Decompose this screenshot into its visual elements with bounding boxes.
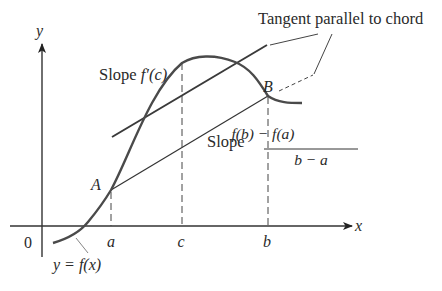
- tick-label-a: a: [107, 233, 115, 250]
- axis-y-label: y: [34, 22, 44, 40]
- origin-label: 0: [24, 234, 32, 251]
- mvt-diagram: Tangent parallel to chord Slope f′(c) Sl…: [0, 0, 442, 291]
- slope-tangent-label: Slope f′(c): [99, 65, 167, 84]
- annotation-tangent-parallel: Tangent parallel to chord: [258, 9, 424, 28]
- point-b-label: B: [263, 78, 273, 95]
- leader-line-chord: [314, 34, 332, 74]
- leader-line-tangent: [270, 34, 318, 45]
- point-a-label: A: [90, 176, 101, 193]
- slope-chord-numerator: f(b) − f(a): [232, 125, 295, 143]
- tick-label-b: b: [263, 233, 271, 250]
- tick-label-c: c: [177, 233, 184, 250]
- chord-extension-dashed: [279, 75, 313, 91]
- curve-label: y = f(x): [51, 256, 101, 274]
- axis-x-label: x: [354, 217, 362, 234]
- leader-line-curve: [76, 238, 88, 253]
- slope-chord-denominator: b − a: [294, 151, 328, 168]
